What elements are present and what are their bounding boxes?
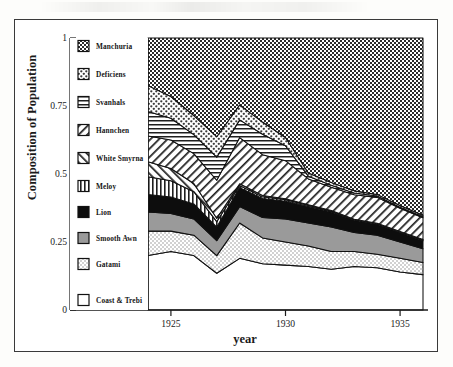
legend-swatch [78, 97, 89, 108]
legend-label: Gatami [96, 260, 120, 269]
y-tick-label: 0.5 [55, 168, 67, 179]
legend-swatch [78, 153, 89, 164]
legend-item-meloy[interactable]: Meloy [78, 181, 116, 192]
legend-swatch [78, 295, 89, 306]
legend-item-manchuria[interactable]: Manchuria [78, 41, 132, 52]
legend-item-coast-trebi[interactable]: Coast & Trebi [78, 295, 142, 306]
legend-label: White Smyrna [96, 154, 144, 163]
legend-item-gatami[interactable]: Gatami [78, 259, 120, 270]
legend-swatch [78, 181, 89, 192]
stacked-area-chart: 00.250.50.751192519301935ManchuriaDefici… [0, 0, 453, 367]
legend-label: Lion [96, 208, 111, 217]
y-tick-label: 0 [62, 304, 67, 315]
legend-item-deficiens[interactable]: Deficiens [78, 69, 126, 80]
legend-swatch [78, 41, 89, 52]
legend-label: Smooth Awn [96, 234, 137, 243]
legend-swatch [78, 233, 89, 244]
legend-label: Coast & Trebi [96, 296, 142, 305]
plot-wrapper: Composition of Population year [0, 0, 453, 367]
legend-swatch [78, 207, 89, 218]
legend-swatch [78, 125, 89, 136]
legend-item-white-smyrna[interactable]: White Smyrna [78, 153, 144, 164]
legend-label: Svanhals [96, 98, 125, 107]
x-tick-label: 1925 [161, 318, 180, 329]
y-tick-label: 1 [62, 32, 67, 43]
y-tick-label: 0.25 [50, 236, 67, 247]
legend-swatch [78, 259, 89, 270]
x-tick-label: 1930 [276, 318, 295, 329]
legend-swatch [78, 69, 89, 80]
y-tick-label: 0.75 [50, 100, 67, 111]
legend-item-svanhals[interactable]: Svanhals [78, 97, 125, 108]
legend-label: Manchuria [96, 42, 132, 51]
legend-label: Hannchen [96, 126, 129, 135]
legend-item-hannchen[interactable]: Hannchen [78, 125, 129, 136]
chart-page: Composition of Population year [0, 0, 453, 367]
legend-item-smooth-awn[interactable]: Smooth Awn [78, 233, 137, 244]
legend-label: Meloy [96, 182, 116, 191]
legend-label: Deficiens [96, 70, 126, 79]
x-tick-label: 1935 [390, 318, 409, 329]
